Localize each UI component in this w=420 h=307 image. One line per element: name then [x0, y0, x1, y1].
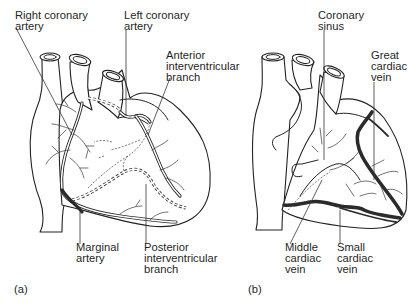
- label-left-coronary-artery: Left coronary artery: [124, 10, 189, 32]
- label-small-cardiac-vein: Small cardiac vein: [337, 242, 373, 275]
- label-marginal-artery: Marginal artery: [76, 242, 119, 264]
- caption-b: (b): [248, 284, 262, 295]
- label-coronary-sinus: Coronary sinus: [318, 10, 364, 32]
- label-right-coronary-artery: Right coronary artery: [15, 10, 88, 32]
- label-anterior-interventricular-branch: Anterior interventricular branch: [166, 50, 239, 83]
- label-great-cardiac-vein: Great cardiac vein: [371, 50, 407, 83]
- label-posterior-interventricular-branch: Posterior interventricular branch: [144, 242, 217, 275]
- caption-a: (a): [14, 284, 28, 295]
- label-middle-cardiac-vein: Middle cardiac vein: [285, 242, 321, 275]
